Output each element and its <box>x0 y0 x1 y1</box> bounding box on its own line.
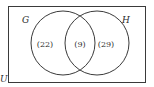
intersection-count: (9) <box>74 40 85 49</box>
universe-label: U <box>0 74 8 84</box>
set-g-label: G <box>22 15 29 25</box>
h-only-count: (29) <box>98 40 114 49</box>
set-h-label: H <box>121 15 130 25</box>
venn-diagram: G H U (22) (9) (29) <box>0 0 154 87</box>
g-only-count: (22) <box>37 40 53 49</box>
